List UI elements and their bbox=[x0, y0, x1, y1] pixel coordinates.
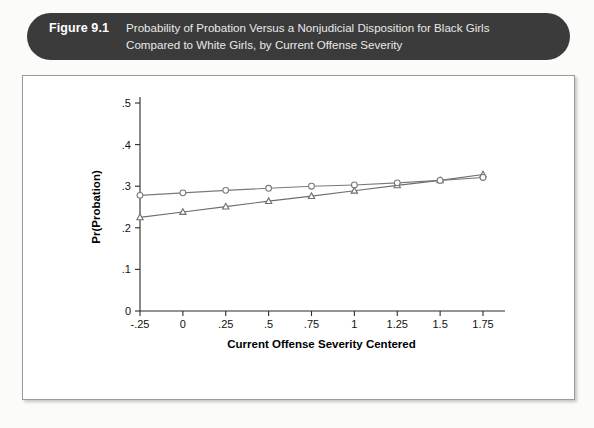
series-blacks-point bbox=[180, 190, 186, 196]
y-axis-title: Pr(Probation) bbox=[90, 170, 102, 244]
y-tick-label: .4 bbox=[122, 139, 131, 151]
y-tick-label: .5 bbox=[122, 97, 131, 109]
series-whites-point bbox=[223, 203, 229, 209]
chart-frame: 0.1.2.3.4.5 -.250.25.5.7511.251.51.75 Cu… bbox=[22, 75, 575, 400]
series-whites-point bbox=[265, 198, 271, 204]
series-blacks-point bbox=[309, 183, 315, 189]
series-whites-point bbox=[308, 193, 314, 199]
x-axis-title: Current Offense Severity Centered bbox=[227, 338, 416, 350]
x-tick-label: 1 bbox=[351, 318, 357, 330]
x-axis: -.250.25.5.7511.251.51.75 bbox=[131, 311, 505, 330]
series-blacks-point bbox=[137, 192, 143, 198]
series-blacks-point bbox=[266, 185, 272, 191]
series-blacks-point bbox=[351, 182, 357, 188]
x-tick-label: 1.75 bbox=[472, 318, 493, 330]
figure-caption-text: Probability of Probation Versus a Nonjud… bbox=[126, 20, 546, 53]
y-tick-label: .3 bbox=[122, 180, 131, 192]
figure-number-label: Figure 9.1 bbox=[49, 20, 109, 37]
series-blacks-point bbox=[480, 175, 486, 181]
x-tick-label: .75 bbox=[304, 318, 319, 330]
series-blacks-point bbox=[394, 180, 400, 186]
series-whites-point bbox=[137, 214, 143, 220]
line-chart-svg: 0.1.2.3.4.5 -.250.25.5.7511.251.51.75 Cu… bbox=[23, 76, 576, 401]
series-whites-point bbox=[180, 209, 186, 215]
x-tick-label: .5 bbox=[264, 318, 273, 330]
x-tick-label: -.25 bbox=[131, 318, 150, 330]
y-tick-label: 0 bbox=[125, 305, 131, 317]
y-axis: 0.1.2.3.4.5 bbox=[122, 97, 140, 317]
plot-area: 0.1.2.3.4.5 -.250.25.5.7511.251.51.75 Cu… bbox=[23, 76, 576, 401]
series-blacks-point bbox=[223, 187, 229, 193]
y-tick-label: .2 bbox=[122, 222, 131, 234]
figure-title-banner: Figure 9.1 Probability of Probation Vers… bbox=[27, 13, 570, 60]
series-blacks-point bbox=[437, 177, 443, 183]
data-series-group bbox=[137, 171, 486, 220]
x-tick-label: .25 bbox=[218, 318, 233, 330]
x-tick-label: 1.5 bbox=[432, 318, 447, 330]
y-tick-label: .1 bbox=[122, 263, 131, 275]
x-tick-label: 1.25 bbox=[387, 318, 408, 330]
x-tick-label: 0 bbox=[180, 318, 186, 330]
